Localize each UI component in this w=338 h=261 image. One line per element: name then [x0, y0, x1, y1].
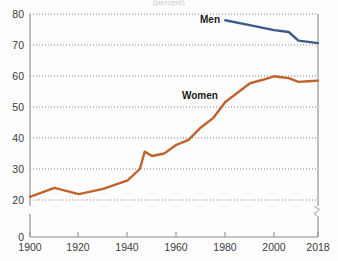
- y-tick-50: 50: [4, 101, 24, 113]
- x-axis-ticks: [30, 232, 318, 237]
- chart-plot-area: [0, 0, 338, 261]
- series-label-men: Men: [200, 14, 220, 25]
- x-tick-1960: 1960: [156, 241, 196, 253]
- y-axis-break-marker: [314, 207, 320, 217]
- x-tick-2018: 2018: [298, 241, 338, 253]
- x-tick-1920: 1920: [58, 241, 98, 253]
- series-line-men: [225, 20, 318, 43]
- y-tick-80: 80: [4, 8, 24, 20]
- y-tick-40: 40: [4, 132, 24, 144]
- y-tick-70: 70: [4, 39, 24, 51]
- x-tick-1980: 1980: [205, 241, 245, 253]
- y-tick-20: 20: [4, 194, 24, 206]
- x-tick-1900: 1900: [10, 241, 50, 253]
- y-tick-30: 30: [4, 163, 24, 175]
- series-line-women: [30, 76, 318, 197]
- grid-lines: [30, 14, 318, 200]
- chart-container: (percent): [0, 0, 338, 261]
- y-tick-60: 60: [4, 70, 24, 82]
- axis-lines: [30, 14, 318, 237]
- series-label-women: Women: [182, 90, 218, 101]
- x-tick-1940: 1940: [107, 241, 147, 253]
- x-tick-2000: 2000: [254, 241, 294, 253]
